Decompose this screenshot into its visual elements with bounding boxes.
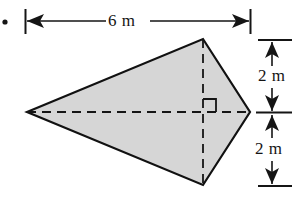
bullet-marker [2,19,7,24]
lower-height-dimension-label: 2 m [255,140,282,157]
width-dimension-label: 6 m [108,12,135,29]
figure-canvas [0,0,292,205]
width-dimension [26,9,251,34]
upper-height-dimension-label: 2 m [258,67,285,84]
geometry-figure: 6 m 2 m 2 m [0,0,292,205]
